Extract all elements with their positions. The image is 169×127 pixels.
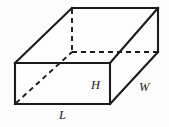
dimension-label-length: L bbox=[59, 109, 66, 122]
dimension-label-width: W bbox=[139, 81, 149, 94]
prism-drawing bbox=[0, 0, 169, 127]
prism-figure: H W L bbox=[0, 0, 169, 127]
dimension-label-height: H bbox=[91, 79, 100, 92]
